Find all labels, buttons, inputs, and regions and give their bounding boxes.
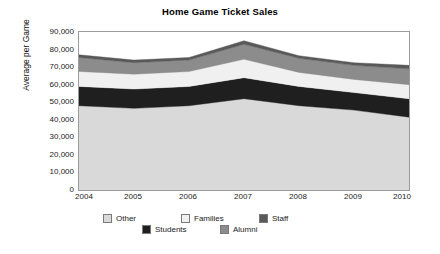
chart-title: Home Game Ticket Sales [0, 6, 440, 17]
chart-legend: OtherFamiliesStaffStudentsAlumni [0, 214, 440, 234]
chart-container: Home Game Ticket Sales Average per Game … [0, 0, 440, 254]
legend-row: OtherFamiliesStaff [103, 214, 337, 223]
legend-label: Other [116, 214, 136, 223]
legend-item-staff[interactable]: Staff [259, 214, 337, 223]
legend-row: StudentsAlumni [142, 225, 298, 234]
legend-item-students[interactable]: Students [142, 225, 220, 234]
y-axis-tick-label: 70,000 [50, 62, 74, 71]
x-axis-tick-label: 2007 [234, 192, 252, 201]
y-axis-tick-label: 20,000 [50, 149, 74, 158]
x-axis-tick-label: 2008 [289, 192, 307, 201]
legend-swatch-icon [142, 225, 151, 234]
legend-label: Students [155, 225, 187, 234]
legend-item-other[interactable]: Other [103, 214, 181, 223]
y-axis-tick-labels: 010,00020,00030,00040,00050,00060,00070,… [24, 31, 74, 189]
y-axis-tick-label: 80,000 [50, 44, 74, 53]
stacked-area-plot [79, 32, 409, 190]
y-axis-tick-label: 30,000 [50, 132, 74, 141]
y-axis-tick-label: 10,000 [50, 167, 74, 176]
legend-item-families[interactable]: Families [181, 214, 259, 223]
legend-item-alumni[interactable]: Alumni [220, 225, 298, 234]
x-axis-tick-labels: 2004200520062007200820092010 [78, 192, 408, 206]
legend-label: Alumni [233, 225, 257, 234]
legend-label: Staff [272, 214, 288, 223]
x-axis-tick-label: 2004 [75, 192, 93, 201]
y-axis-tick-label: 40,000 [50, 114, 74, 123]
x-axis-tick-label: 2009 [344, 192, 362, 201]
legend-label: Families [194, 214, 224, 223]
y-axis-tick-label: 90,000 [50, 27, 74, 36]
y-axis-tick-label: 50,000 [50, 97, 74, 106]
x-axis-tick-label: 2006 [179, 192, 197, 201]
y-axis-tick-label: 0 [70, 185, 74, 194]
area-series-other [79, 99, 409, 190]
legend-swatch-icon [181, 214, 190, 223]
plot-area [78, 31, 410, 191]
legend-swatch-icon [103, 214, 112, 223]
x-axis-tick-label: 2005 [124, 192, 142, 201]
x-axis-tick-label: 2010 [393, 192, 411, 201]
y-axis-tick-label: 60,000 [50, 79, 74, 88]
legend-swatch-icon [220, 225, 229, 234]
legend-swatch-icon [259, 214, 268, 223]
